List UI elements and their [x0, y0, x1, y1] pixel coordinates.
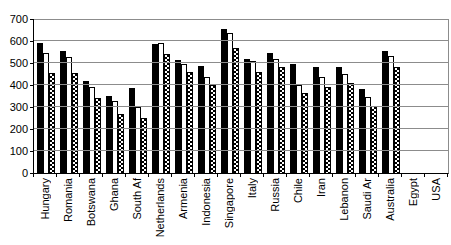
bar-series-3-botswana: [95, 98, 101, 173]
gridline-600: [34, 40, 448, 41]
y-axis-tick-mark: [30, 85, 33, 86]
x-axis-tick-label: Romania: [62, 178, 74, 222]
x-label-cell: Australia: [378, 178, 401, 244]
x-label-cell: Romania: [56, 178, 79, 244]
y-axis-tick-label: 300: [0, 101, 28, 114]
gridline-100: [34, 150, 448, 151]
x-axis-tick-mark: [194, 174, 195, 177]
x-axis-tick-mark: [171, 174, 172, 177]
x-axis-tick-label: Egypt: [407, 178, 419, 206]
y-axis-tick-mark: [30, 63, 33, 64]
bar-series-3-south-af: [141, 118, 147, 173]
x-label-cell: Saudi Ar: [355, 178, 378, 244]
x-axis-tick-mark: [286, 174, 287, 177]
bar-series-3-armenia: [187, 72, 193, 173]
x-label-cell: Chile: [286, 178, 309, 244]
x-axis-labels: HungaryRomaniaBotswanaGhanaSouth AfNethe…: [33, 178, 447, 244]
gridline-300: [34, 106, 448, 107]
y-axis-tick-mark: [30, 19, 33, 20]
y-axis-tick-label: 500: [0, 57, 28, 70]
x-label-cell: Hungary: [33, 178, 56, 244]
x-axis-tick-mark: [332, 174, 333, 177]
bar-series-3-iran: [325, 87, 331, 173]
y-axis-tick-mark: [30, 129, 33, 130]
y-axis-tick-mark: [30, 151, 33, 152]
x-axis-tick-label: Hungary: [39, 178, 51, 220]
x-label-cell: Indonesia: [194, 178, 217, 244]
x-axis-tick-mark: [424, 174, 425, 177]
bar-series-3-italy: [256, 72, 262, 173]
x-axis-tick-label: Russia: [269, 178, 281, 212]
x-label-cell: Iran: [309, 178, 332, 244]
bar-chart: HungaryRomaniaBotswanaGhanaSouth AfNethe…: [0, 0, 451, 245]
x-label-cell: Italy: [240, 178, 263, 244]
x-axis-tick-mark: [263, 174, 264, 177]
x-axis-tick-mark: [33, 174, 34, 177]
x-axis-tick-label: Italy: [246, 178, 258, 198]
y-axis-tick-label: 200: [0, 123, 28, 136]
y-axis-tick-label: 400: [0, 79, 28, 92]
x-axis-tick-label: South Af: [131, 178, 143, 220]
bar-series-3-romania: [72, 73, 78, 173]
x-axis-tick-mark: [56, 174, 57, 177]
bar-series-3-australia: [394, 67, 400, 173]
x-axis-tick-label: Netherlands: [154, 178, 166, 237]
bar-series-3-chile: [302, 93, 308, 173]
x-axis-tick-label: Ghana: [108, 178, 120, 211]
x-axis-tick-label: Lebanon: [338, 178, 350, 221]
x-label-cell: Lebanon: [332, 178, 355, 244]
bar-series-3-russia: [279, 67, 285, 173]
x-axis-tick-mark: [79, 174, 80, 177]
y-axis-tick-label: 0: [0, 167, 28, 180]
x-axis-tick-mark: [447, 174, 448, 177]
x-axis-tick-mark: [102, 174, 103, 177]
x-label-cell: South Af: [125, 178, 148, 244]
bar-series-3-netherlands: [164, 54, 170, 173]
bar-series-3-hungary: [49, 73, 55, 173]
x-axis-tick-label: Indonesia: [200, 178, 212, 226]
x-label-cell: Ghana: [102, 178, 125, 244]
y-axis-tick-label: 600: [0, 35, 28, 48]
bar-series-3-ghana: [118, 114, 124, 173]
x-label-cell: Botswana: [79, 178, 102, 244]
plot-area: [33, 19, 449, 174]
x-axis-tick-mark: [217, 174, 218, 177]
bar-series-3-saudi-ar: [371, 106, 377, 173]
x-label-cell: Egypt: [401, 178, 424, 244]
x-axis-tick-mark: [309, 174, 310, 177]
x-axis-tick-label: Australia: [384, 178, 396, 221]
x-label-cell: Armenia: [171, 178, 194, 244]
y-axis-tick-mark: [30, 107, 33, 108]
x-axis-tick-label: Singapore: [223, 178, 235, 228]
x-label-cell: USA: [424, 178, 447, 244]
y-axis-tick-mark: [30, 41, 33, 42]
x-axis-tick-label: USA: [430, 178, 442, 201]
x-axis-tick-label: Saudi Ar: [361, 178, 373, 220]
y-axis-tick-label: 700: [0, 13, 28, 26]
x-axis-tick-label: Botswana: [85, 178, 97, 226]
gridline-700: [34, 19, 448, 20]
x-axis-tick-label: Armenia: [177, 178, 189, 219]
x-label-cell: Singapore: [217, 178, 240, 244]
x-axis-tick-mark: [125, 174, 126, 177]
bar-series-3-indonesia: [210, 85, 216, 173]
x-label-cell: Russia: [263, 178, 286, 244]
x-axis-tick-mark: [240, 174, 241, 177]
x-label-cell: Netherlands: [148, 178, 171, 244]
gridline-500: [34, 62, 448, 63]
x-axis-tick-mark: [355, 174, 356, 177]
x-axis-tick-label: Iran: [315, 178, 327, 197]
gridline-400: [34, 84, 448, 85]
x-axis-tick-mark: [378, 174, 379, 177]
bar-series-3-singapore: [233, 48, 239, 173]
x-axis-tick-mark: [401, 174, 402, 177]
x-axis-tick-label: Chile: [292, 178, 304, 203]
x-axis-tick-mark: [148, 174, 149, 177]
gridline-200: [34, 128, 448, 129]
y-axis-tick-label: 100: [0, 145, 28, 158]
